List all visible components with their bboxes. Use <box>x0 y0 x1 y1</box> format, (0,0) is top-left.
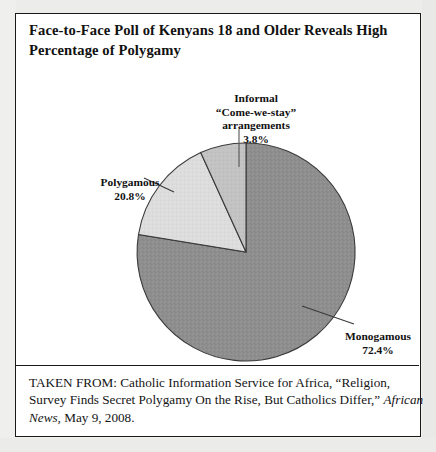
pie-label-informal-line-2: “Come-we-stay” <box>190 106 322 120</box>
page-margin-right <box>422 0 436 452</box>
page-margin-left <box>0 0 16 452</box>
page-margin-top <box>0 0 436 14</box>
pie-label-informal-line-3: arrangements <box>190 119 322 133</box>
pie-label-monogamous-name: Monogamous <box>322 330 434 344</box>
source-publication-cont: News, <box>29 410 64 425</box>
page-background: Face-to-Face Poll of Kenyans 18 and Olde… <box>0 0 436 452</box>
figure-frame: Face-to-Face Poll of Kenyans 18 and Olde… <box>15 13 421 437</box>
source-line-2: Survey Finds Secret Polygamy On the Rise… <box>29 391 407 408</box>
pie-label-monogamous-value: 72.4% <box>322 344 434 358</box>
figure-divider <box>16 365 419 366</box>
source-publication: African <box>384 392 424 407</box>
pie-label-informal-value: 3.8% <box>190 133 322 147</box>
pie-label-polygamous-name: Polygamous <box>72 176 188 190</box>
pie-label-informal: Informal “Come-we-stay” arrangements 3.8… <box>190 92 322 146</box>
pie-chart: Informal “Come-we-stay” arrangements 3.8… <box>16 14 419 364</box>
source-line-3-rest: May 9, 2008. <box>64 410 134 425</box>
page-margin-bottom <box>0 438 436 452</box>
pie-label-informal-line-1: Informal <box>190 92 322 106</box>
source-line-3: News, May 9, 2008. <box>29 409 407 426</box>
source-line-2-text: Survey Finds Secret Polygamy On the Rise… <box>29 392 384 407</box>
pie-label-monogamous: Monogamous 72.4% <box>322 330 434 357</box>
source-line-1: TAKEN FROM: Catholic Information Service… <box>29 374 407 391</box>
pie-label-polygamous: Polygamous 20.8% <box>72 176 188 203</box>
pie-label-polygamous-value: 20.8% <box>72 190 188 204</box>
figure-source: TAKEN FROM: Catholic Information Service… <box>29 374 407 426</box>
